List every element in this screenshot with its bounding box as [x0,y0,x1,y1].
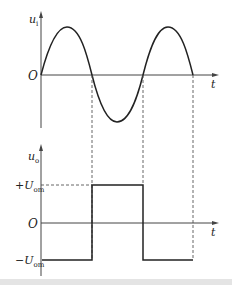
top-ylabel: ui [29,13,39,28]
top-x-arrow-icon [212,73,219,77]
bottom-plot: uo O t +Uom −Uom [15,144,219,276]
bottom-border-band [0,279,232,285]
bottom-origin-label: O [28,217,38,231]
low-level-label: −Uom [15,254,45,269]
bottom-x-arrow-icon [212,221,219,225]
high-level-label: +Uom [15,179,45,194]
top-plot: ui O t [28,11,219,128]
dashed-guides [41,75,193,259]
bottom-y-arrow-icon [39,144,43,151]
top-xlabel: t [211,78,216,91]
bottom-ylabel: uo [28,150,39,165]
top-origin-label: O [28,69,38,83]
bottom-xlabel: t [211,226,216,239]
top-y-arrow-icon [39,11,43,18]
comparator-waveform-diagram: ui O t uo O t +Uom −Uom [0,0,232,285]
